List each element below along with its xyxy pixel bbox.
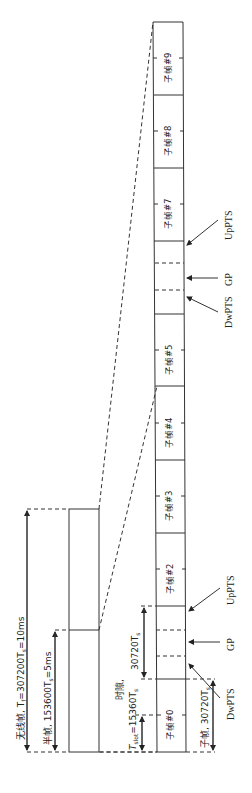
special-subframe-length: 30720Ts xyxy=(130,633,141,670)
radio-frame-label: 无线帧, Tf=307200Ts=10ms xyxy=(15,616,27,740)
special-subframe-dimension: 30720Ts xyxy=(130,606,157,679)
radio-frame-box xyxy=(69,509,99,752)
dwpts-label-6: DwPTS xyxy=(223,296,234,328)
subframe-2: 子帧#2 xyxy=(165,563,175,594)
subframe-3: 子帧#3 xyxy=(164,490,174,521)
subframe-dimension: 子帧, 30720Ts xyxy=(186,679,215,752)
radio-frame-dimension: 无线帧, Tf=307200Ts=10ms xyxy=(15,509,69,752)
gp-label-6: GP xyxy=(223,273,234,286)
dwpts-label-1: DwPTS xyxy=(225,688,236,720)
subframe-0: 子帧#0 xyxy=(165,709,175,740)
subframe-strip: 子帧#0 子帧#2 子帧#3 子帧#4 子帧#5 子帧#7 子帧#8 子帧#9 xyxy=(153,22,186,752)
subframe-7: 子帧#7 xyxy=(163,198,173,229)
slot-label-line1: 时隙, xyxy=(114,679,125,700)
tdd-frame-structure-diagram: 无线帧, Tf=307200Ts=10ms 半帧, 153600Ts=5ms xyxy=(0,0,252,793)
subframe-8: 子帧#8 xyxy=(163,125,173,156)
slot-dimension: 时隙, Tslot=15360Ts xyxy=(100,679,157,752)
gp-label-1: GP xyxy=(225,638,236,651)
half-frame-label: 半帧, 153600Ts=5ms xyxy=(42,651,54,745)
expand-line-half xyxy=(99,386,157,630)
subframe-4: 子帧#4 xyxy=(164,417,174,448)
subframe-length-label: 子帧, 30720Ts xyxy=(199,687,211,748)
uppts-label-1: UpPTS xyxy=(225,576,236,605)
subframe-9: 子帧#9 xyxy=(163,52,173,83)
half-frame-dimension: 半帧, 153600Ts=5ms xyxy=(42,630,69,750)
special-subframe-6-arrows: DwPTS GP UpPTS xyxy=(187,211,234,328)
uppts-label-6: UpPTS xyxy=(223,211,234,240)
subframe-5: 子帧#5 xyxy=(164,344,174,375)
slot-label: Tslot=15360Ts xyxy=(128,689,139,750)
